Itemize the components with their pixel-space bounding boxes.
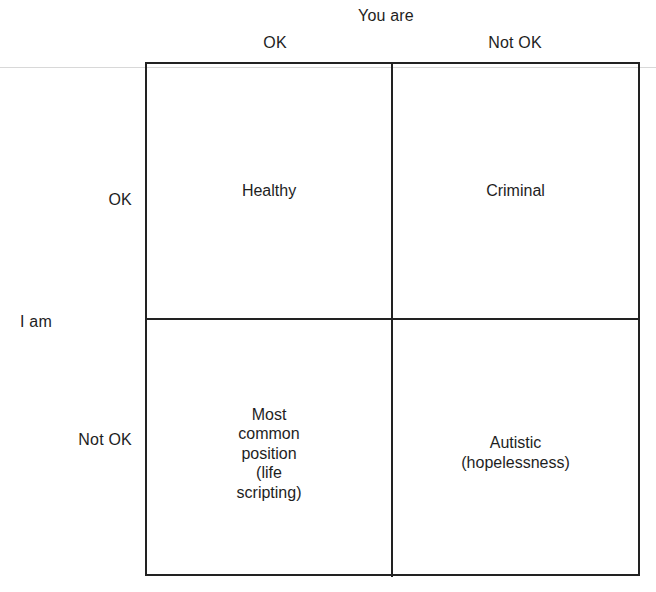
column-label-not-ok: Not OK <box>415 34 615 52</box>
row-label-ok: OK <box>12 191 132 209</box>
left-axis-title: I am <box>20 313 52 331</box>
quadrant-not-ok-ok: Most common position (life scripting) <box>147 320 391 575</box>
top-axis-title: You are <box>358 7 414 25</box>
column-label-ok: OK <box>175 34 375 52</box>
row-label-not-ok: Not OK <box>12 431 132 449</box>
quadrant-label-most-common-position: Most common position (life scripting) <box>237 405 302 503</box>
quadrant-ok-ok: Healthy <box>147 64 391 318</box>
quadrant-not-ok-not-ok: Autistic (hopelessness) <box>393 320 638 575</box>
quadrant-ok-not-ok: Criminal <box>393 64 638 318</box>
quadrant-label-autistic: Autistic (hopelessness) <box>461 433 570 472</box>
quadrant-label-criminal: Criminal <box>486 181 545 201</box>
quadrant-label-healthy: Healthy <box>242 181 296 201</box>
